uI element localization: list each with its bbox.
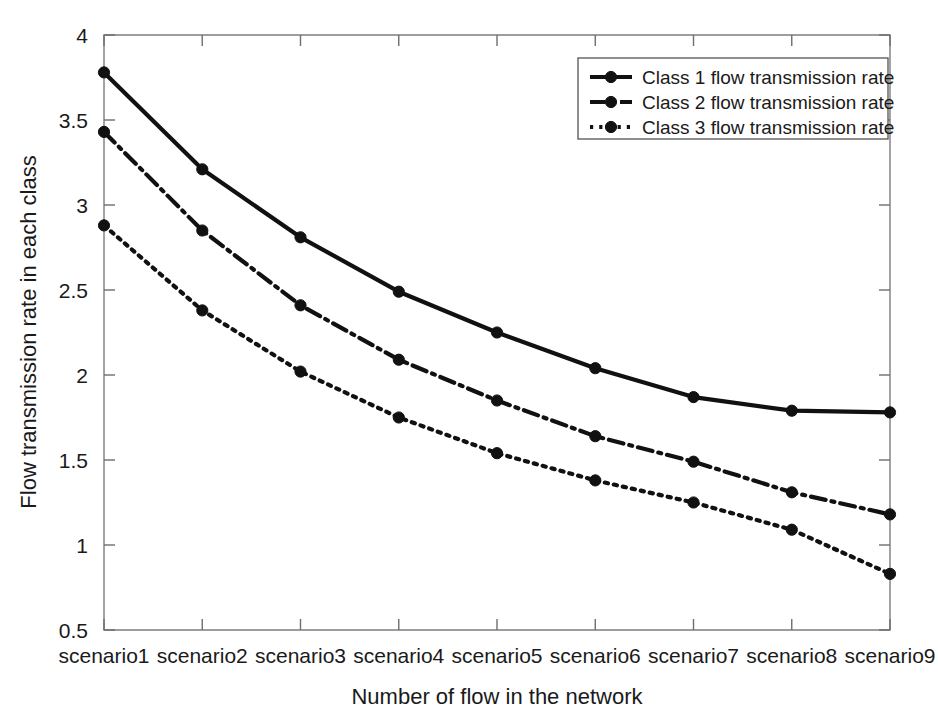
- y-tick-label: 1: [76, 534, 88, 557]
- chart-figure: 0.511.522.533.54 scenario1scenario2scena…: [0, 0, 938, 718]
- data-point-marker: [688, 497, 699, 508]
- y-tick-label: 0.5: [59, 619, 88, 642]
- data-point-marker: [393, 354, 404, 365]
- data-point-marker: [491, 395, 502, 406]
- data-point-marker: [295, 366, 306, 377]
- data-point-marker: [688, 392, 699, 403]
- data-point-marker: [197, 164, 208, 175]
- legend-marker-1: [605, 71, 616, 82]
- legend-marker-3: [605, 121, 616, 132]
- data-point-marker: [491, 327, 502, 338]
- data-point-marker: [884, 568, 895, 579]
- data-point-marker: [98, 67, 109, 78]
- legend-label-1: Class 1 flow transmission rate: [642, 67, 894, 88]
- data-point-marker: [295, 300, 306, 311]
- y-tick-label: 4: [76, 24, 88, 47]
- y-tick-label: 3.5: [59, 109, 88, 132]
- x-tick-label: scenario5: [451, 644, 542, 667]
- data-point-marker: [491, 448, 502, 459]
- data-point-marker: [884, 407, 895, 418]
- y-tick-label: 3: [76, 194, 88, 217]
- line-chart-canvas: 0.511.522.533.54 scenario1scenario2scena…: [0, 0, 938, 718]
- x-tick-label: scenario3: [255, 644, 346, 667]
- y-tick-label: 2.5: [59, 279, 88, 302]
- y-axis-title: Flow transmission rate in each class: [16, 155, 41, 508]
- y-tick-label: 2: [76, 364, 88, 387]
- data-point-marker: [590, 431, 601, 442]
- data-point-marker: [393, 412, 404, 423]
- data-point-marker: [688, 456, 699, 467]
- data-point-marker: [393, 286, 404, 297]
- data-point-marker: [786, 524, 797, 535]
- data-point-marker: [98, 220, 109, 231]
- x-tick-label: scenario7: [648, 644, 739, 667]
- y-tick-label: 1.5: [59, 449, 88, 472]
- x-tick-label: scenario8: [746, 644, 837, 667]
- data-point-marker: [884, 509, 895, 520]
- x-tick-label: scenario4: [353, 644, 444, 667]
- data-point-marker: [590, 363, 601, 374]
- data-point-marker: [98, 126, 109, 137]
- x-tick-label: scenario2: [157, 644, 248, 667]
- x-axis-tick-labels: scenario1scenario2scenario3scenario4scen…: [58, 644, 935, 667]
- data-point-marker: [590, 475, 601, 486]
- chart-legend[interactable]: Class 1 flow transmission rateClass 2 fl…: [578, 58, 894, 139]
- x-tick-label: scenario9: [844, 644, 935, 667]
- legend-label-3: Class 3 flow transmission rate: [642, 117, 894, 138]
- data-point-marker: [295, 232, 306, 243]
- legend-label-2: Class 2 flow transmission rate: [642, 92, 894, 113]
- legend-marker-2: [605, 96, 616, 107]
- x-axis-title: Number of flow in the network: [351, 684, 643, 709]
- data-point-marker: [786, 487, 797, 498]
- data-point-marker: [786, 405, 797, 416]
- data-point-marker: [197, 225, 208, 236]
- x-tick-label: scenario6: [550, 644, 641, 667]
- x-tick-label: scenario1: [58, 644, 149, 667]
- data-point-marker: [197, 305, 208, 316]
